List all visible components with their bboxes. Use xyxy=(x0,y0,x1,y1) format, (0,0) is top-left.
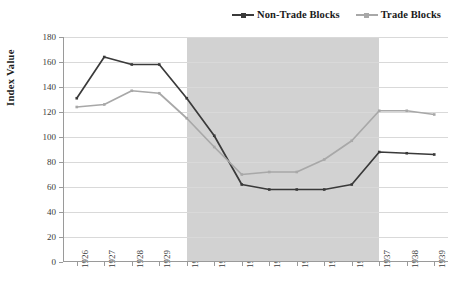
x-tick xyxy=(159,262,160,266)
data-point-marker xyxy=(158,92,161,95)
data-point-marker xyxy=(213,134,216,137)
series-line xyxy=(77,57,435,190)
x-tick xyxy=(214,262,215,266)
data-point-marker xyxy=(75,106,78,109)
series-lines xyxy=(63,37,448,262)
x-tick xyxy=(379,262,380,266)
data-point-marker xyxy=(130,89,133,92)
chart-container: Non-Trade Blocks Trade Blocks Index Valu… xyxy=(0,0,462,301)
data-point-marker xyxy=(350,139,353,142)
data-point-marker xyxy=(350,183,353,186)
data-point-marker xyxy=(185,117,188,120)
data-point-marker xyxy=(323,158,326,161)
x-tick xyxy=(77,262,78,266)
data-point-marker xyxy=(295,171,298,174)
x-tick xyxy=(434,262,435,266)
data-point-marker xyxy=(295,188,298,191)
x-tick xyxy=(297,262,298,266)
data-point-marker xyxy=(240,183,243,186)
data-point-marker xyxy=(378,151,381,154)
x-tick xyxy=(352,262,353,266)
data-point-marker xyxy=(268,188,271,191)
data-point-marker xyxy=(75,97,78,100)
data-point-marker xyxy=(103,56,106,59)
data-point-marker xyxy=(323,188,326,191)
data-point-marker xyxy=(378,109,381,112)
x-tick xyxy=(269,262,270,266)
x-tick xyxy=(324,262,325,266)
plot-area xyxy=(63,37,448,262)
data-point-marker xyxy=(268,171,271,174)
data-point-marker xyxy=(405,152,408,155)
series-line xyxy=(77,91,435,175)
data-point-marker xyxy=(213,146,216,149)
data-point-marker xyxy=(240,173,243,176)
data-point-marker xyxy=(130,63,133,66)
x-tick xyxy=(187,262,188,266)
data-point-marker xyxy=(103,103,106,106)
data-point-marker xyxy=(405,109,408,112)
data-point-marker xyxy=(433,153,436,156)
data-point-marker xyxy=(185,97,188,100)
x-tick xyxy=(407,262,408,266)
data-point-marker xyxy=(433,113,436,116)
y-tick xyxy=(59,262,63,263)
x-tick xyxy=(104,262,105,266)
x-tick xyxy=(132,262,133,266)
data-point-marker xyxy=(158,63,161,66)
x-tick xyxy=(242,262,243,266)
